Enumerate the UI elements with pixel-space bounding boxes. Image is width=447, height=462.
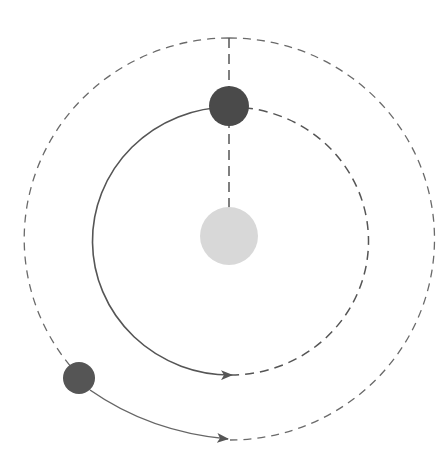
orbit-diagram	[0, 0, 447, 462]
central-body	[200, 207, 258, 265]
orbiting-body-inner	[209, 86, 249, 126]
diagram-canvas	[0, 0, 447, 462]
outer-orbit-dashed	[229, 38, 435, 440]
outer-orbit-dashed-left	[24, 38, 229, 368]
outer-orbit-arrow-path	[90, 390, 228, 439]
orbiting-body-outer	[63, 362, 95, 394]
